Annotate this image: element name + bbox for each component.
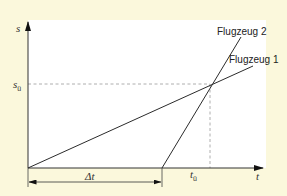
line-flugzeug-1: [28, 66, 253, 168]
diagram-svg: s sü t tü Δt Flugzeug 2 Flugzeug 1: [0, 0, 287, 196]
diagram-frame: s sü t tü Δt Flugzeug 2 Flugzeug 1: [0, 0, 287, 196]
t-axis-label: t: [256, 170, 260, 182]
s-crossing-label: sü: [13, 78, 21, 92]
delta-t-label: Δt: [84, 170, 95, 182]
t-crossing-label: tü: [190, 168, 197, 182]
label-flugzeug-1: Flugzeug 1: [229, 54, 279, 65]
label-flugzeug-2: Flugzeug 2: [217, 26, 267, 37]
s-axis-label: s: [16, 22, 20, 34]
